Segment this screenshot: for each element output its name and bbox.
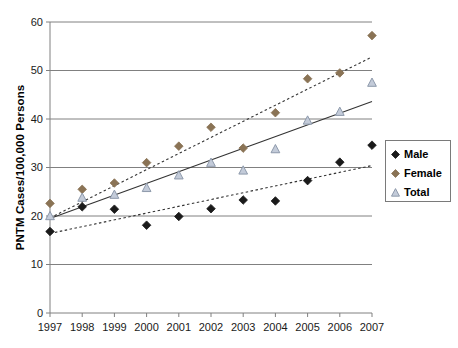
x-tick-label: 2002 <box>194 322 228 333</box>
data-point-male-1997 <box>46 227 55 236</box>
legend-label: Female <box>404 168 442 179</box>
legend-item-male[interactable]: Male <box>390 147 428 161</box>
chart-figure: PNTM Cases/100,000 Persons 0102030405060… <box>0 0 458 348</box>
data-point-male-2004 <box>271 197 280 206</box>
data-point-female-2006 <box>336 69 345 78</box>
y-tick-label: 50 <box>21 65 43 76</box>
data-point-male-1999 <box>110 205 119 214</box>
data-point-male-2006 <box>336 158 345 167</box>
data-point-female-1999 <box>110 179 119 188</box>
y-tick-label: 40 <box>21 114 43 125</box>
data-point-female-2005 <box>303 74 312 83</box>
open-triangle-icon <box>390 187 401 198</box>
y-tick-label: 30 <box>21 162 43 173</box>
data-point-female-2003 <box>239 144 248 153</box>
x-tick-label: 2000 <box>130 322 164 333</box>
legend-item-female[interactable]: Female <box>390 166 442 180</box>
y-tick-label: 60 <box>21 17 43 28</box>
trendline-male <box>50 166 372 234</box>
x-tick-label: 2004 <box>258 322 292 333</box>
x-tick-label: 2005 <box>291 322 325 333</box>
data-point-female-2004 <box>271 108 280 117</box>
x-tick-label: 1998 <box>65 322 99 333</box>
data-point-total-2006 <box>335 107 344 115</box>
data-point-total-1998 <box>78 193 87 201</box>
data-point-female-2007 <box>368 31 377 40</box>
data-point-male-2003 <box>239 196 248 205</box>
data-point-male-2002 <box>207 204 216 213</box>
data-point-total-2005 <box>303 116 312 124</box>
legend-item-total[interactable]: Total <box>390 185 429 199</box>
x-tick-label: 1997 <box>33 322 67 333</box>
data-point-total-2004 <box>271 144 280 152</box>
trendline-female <box>50 57 372 218</box>
data-point-male-2005 <box>303 176 312 185</box>
data-point-total-2001 <box>174 171 183 179</box>
data-point-female-1997 <box>46 199 55 208</box>
data-point-female-2002 <box>207 123 216 132</box>
x-tick-label: 2007 <box>355 322 389 333</box>
x-tick-label: 1999 <box>97 322 131 333</box>
x-tick-label: 2006 <box>323 322 357 333</box>
y-tick-label: 20 <box>21 211 43 222</box>
filled-diamond-icon <box>390 149 401 160</box>
y-tick-label: 0 <box>21 308 43 319</box>
data-point-female-2001 <box>175 142 184 151</box>
data-point-male-2007 <box>368 141 377 150</box>
filled-diamond-icon <box>390 168 401 179</box>
y-tick-label: 10 <box>21 259 43 270</box>
data-point-total-2007 <box>368 78 377 86</box>
legend-label: Male <box>404 149 428 160</box>
data-point-female-2000 <box>142 158 151 167</box>
data-point-male-2000 <box>142 221 151 230</box>
data-point-male-2001 <box>175 212 184 221</box>
x-tick-label: 2001 <box>162 322 196 333</box>
x-tick-label: 2003 <box>226 322 260 333</box>
legend-label: Total <box>404 187 429 198</box>
